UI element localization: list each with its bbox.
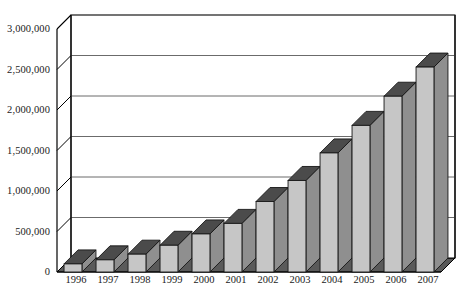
x-axis-tick-label: 2007 [418, 274, 439, 286]
x-axis-tick-label: 1999 [162, 274, 183, 286]
x-axis-tick-label: 2003 [290, 274, 311, 286]
value-axis-top-connector [57, 15, 71, 29]
x-axis-tick-label: 2001 [226, 274, 247, 286]
bar-side-face [402, 82, 416, 272]
x-axis-tick-label: 1998 [130, 274, 151, 286]
bar-front-face [288, 180, 306, 272]
gridline-depth-connector [57, 56, 71, 70]
bar-front-face [224, 223, 242, 272]
bar-front-face [192, 234, 210, 272]
bar-front-face [320, 153, 338, 272]
bar [224, 209, 256, 272]
bar-front-face [64, 264, 82, 272]
bar-chart: 0500,0001,000,0001,500,0002,000,0002,500… [0, 0, 456, 298]
bar [320, 139, 352, 272]
gridline-depth-connector [57, 137, 71, 151]
bar-front-face [384, 96, 402, 272]
bar-front-face [128, 254, 146, 272]
gridline-depth-connector [57, 218, 71, 232]
bar [256, 188, 288, 272]
bar [384, 82, 416, 272]
bar-front-face [96, 260, 114, 272]
x-axis: 1996199719981999200020012002200320042005… [0, 274, 456, 294]
bar-side-face [370, 111, 384, 272]
x-axis-tick-label: 2002 [258, 274, 279, 286]
x-axis-tick-label: 2000 [194, 274, 215, 286]
bar-side-face [274, 188, 288, 272]
bar [416, 53, 448, 272]
bar-side-face [306, 166, 320, 272]
bar [352, 111, 384, 272]
x-axis-tick-label: 1996 [66, 274, 87, 286]
bar-side-face [434, 53, 448, 272]
bar-side-face [338, 139, 352, 272]
bar-front-face [352, 125, 370, 272]
bar-front-face [416, 67, 434, 272]
bar-front-face [256, 202, 274, 272]
plot-area [0, 0, 456, 298]
bar-front-face [160, 245, 178, 272]
gridline-depth-connector [57, 96, 71, 110]
x-axis-tick-label: 2004 [322, 274, 343, 286]
bar [288, 166, 320, 272]
gridline-depth-connector [57, 177, 71, 191]
x-axis-tick-label: 2005 [354, 274, 375, 286]
x-axis-tick-label: 2006 [386, 274, 407, 286]
x-axis-tick-label: 1997 [98, 274, 119, 286]
